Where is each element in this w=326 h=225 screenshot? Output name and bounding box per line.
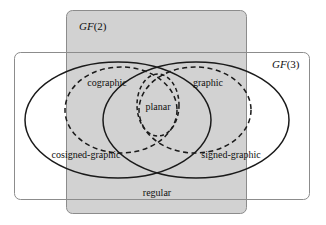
venn-diagram-figure: GF(2) GF(3) cographic graphic planar cos… xyxy=(0,0,326,225)
label-planar: planar xyxy=(146,101,172,112)
venn-diagram-canvas: GF(2) GF(3) cographic graphic planar cos… xyxy=(0,0,326,225)
label-cosigned-graphic: cosigned-graphic xyxy=(52,149,121,160)
label-graphic: graphic xyxy=(193,77,224,88)
label-gf2-arg: (2) xyxy=(94,20,107,33)
label-gf3-arg: (3) xyxy=(287,58,300,71)
label-gf2-prefix: GF xyxy=(79,20,94,32)
label-signed-graphic: signed-graphic xyxy=(201,149,261,160)
label-cographic: cographic xyxy=(87,77,127,88)
label-gf3-prefix: GF xyxy=(272,58,287,70)
region-rect-gf2 xyxy=(67,11,247,214)
label-regular: regular xyxy=(143,187,172,198)
label-gf2: GF(2) xyxy=(79,20,107,33)
label-gf3: GF(3) xyxy=(272,58,300,71)
